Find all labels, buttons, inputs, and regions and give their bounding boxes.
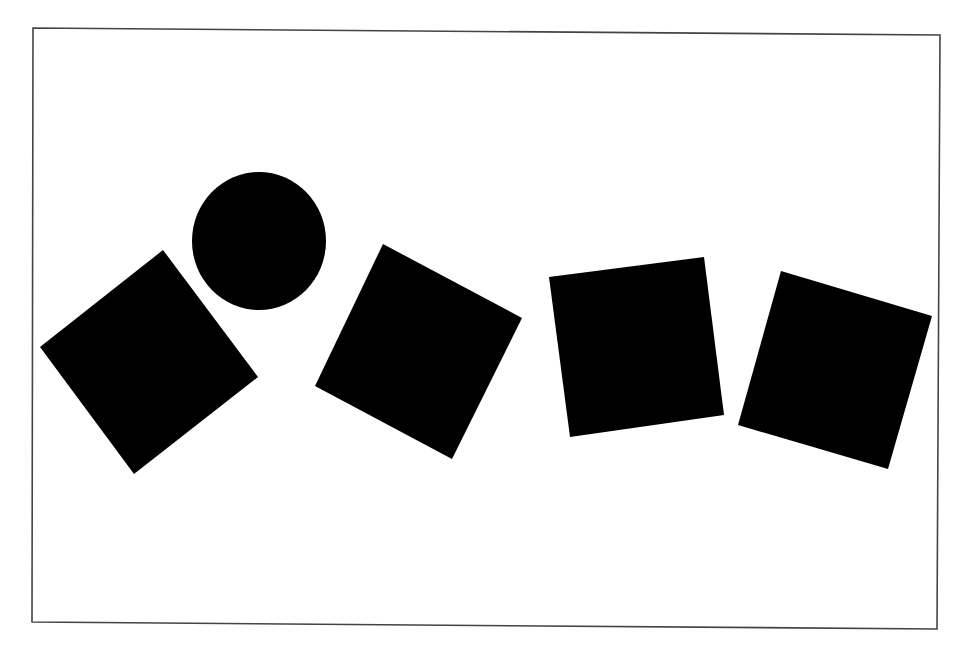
circle bbox=[192, 172, 326, 310]
diagram-canvas bbox=[0, 0, 973, 661]
rotated-square-3 bbox=[549, 257, 724, 437]
